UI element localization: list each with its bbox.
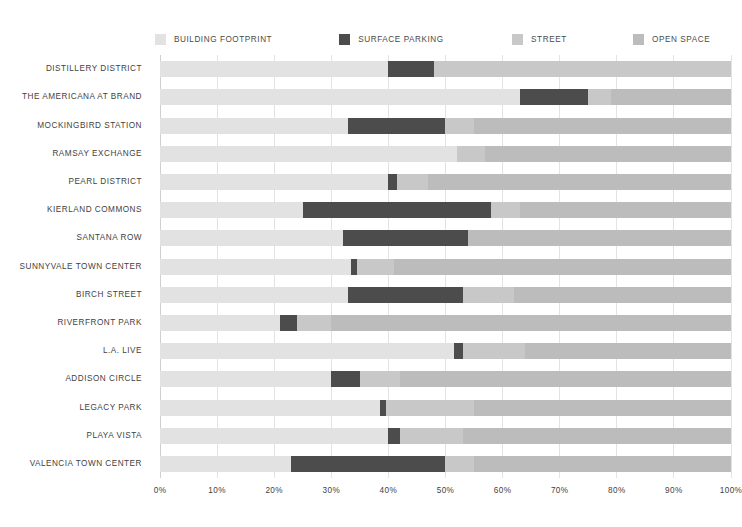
bar-segment[interactable]	[394, 259, 731, 275]
value-axis-labels: 0%10%20%30%40%50%60%70%80%90%100%	[160, 486, 731, 500]
bar-segment[interactable]	[160, 61, 388, 77]
bar-segment[interactable]	[514, 287, 731, 303]
bar-segment[interactable]	[434, 61, 731, 77]
bar-track	[160, 174, 731, 190]
bar-segment[interactable]	[388, 428, 399, 444]
bar-row[interactable]	[160, 287, 731, 303]
bar-segment[interactable]	[331, 371, 360, 387]
bar-segment[interactable]	[160, 400, 380, 416]
bar-segment[interactable]	[491, 202, 520, 218]
category-label: DISTILLERY DISTRICT	[46, 64, 142, 73]
bar-segment[interactable]	[357, 259, 394, 275]
bar-segment[interactable]	[428, 174, 731, 190]
bar-segment[interactable]	[468, 230, 731, 246]
plot-area	[160, 55, 731, 478]
bar-segment[interactable]	[474, 400, 731, 416]
bar-segment[interactable]	[160, 428, 388, 444]
category-label: BIRCH STREET	[76, 290, 142, 299]
bar-segment[interactable]	[160, 287, 348, 303]
legend-item[interactable]: OPEN SPACE	[633, 30, 710, 48]
bar-segment[interactable]	[388, 174, 397, 190]
bar-segment[interactable]	[160, 230, 343, 246]
bar-row[interactable]	[160, 61, 731, 77]
x-tick-label: 90%	[665, 486, 683, 495]
category-label: SANTANA ROW	[77, 233, 142, 242]
bar-segment[interactable]	[388, 61, 434, 77]
bar-segment[interactable]	[474, 456, 731, 472]
bar-row[interactable]	[160, 259, 731, 275]
bar-row[interactable]	[160, 371, 731, 387]
bar-segment[interactable]	[160, 259, 351, 275]
bar-row[interactable]	[160, 202, 731, 218]
bar-row[interactable]	[160, 146, 731, 162]
bar-row[interactable]	[160, 174, 731, 190]
bar-segment[interactable]	[474, 118, 731, 134]
bar-segment[interactable]	[348, 287, 462, 303]
bar-segment[interactable]	[445, 456, 474, 472]
legend-item-label: OPEN SPACE	[652, 35, 710, 44]
bar-segment[interactable]	[386, 400, 475, 416]
category-label: SUNNYVALE TOWN CENTER	[20, 262, 142, 271]
bar-track	[160, 259, 731, 275]
bar-segment[interactable]	[525, 343, 731, 359]
bar-row[interactable]	[160, 230, 731, 246]
legend-item[interactable]: STREET	[512, 30, 567, 48]
bar-segment[interactable]	[160, 146, 457, 162]
bar-segment[interactable]	[457, 146, 486, 162]
bar-segment[interactable]	[400, 428, 463, 444]
bar-segment[interactable]	[343, 230, 469, 246]
bar-track	[160, 230, 731, 246]
legend-swatch-icon	[633, 34, 644, 45]
bar-segment[interactable]	[463, 287, 514, 303]
bar-segment[interactable]	[454, 343, 463, 359]
x-tick-label: 100%	[720, 486, 742, 495]
category-label: PEARL DISTRICT	[68, 177, 142, 186]
bar-segment[interactable]	[588, 89, 611, 105]
bar-row[interactable]	[160, 118, 731, 134]
bar-segment[interactable]	[297, 315, 331, 331]
bar-segment[interactable]	[445, 118, 474, 134]
bar-segment[interactable]	[520, 202, 731, 218]
x-tick-label: 70%	[551, 486, 569, 495]
bar-segment[interactable]	[520, 89, 589, 105]
category-label: THE AMERICANA AT BRAND	[22, 92, 142, 101]
x-tick-label: 30%	[323, 486, 341, 495]
bar-segment[interactable]	[160, 202, 303, 218]
bar-segment[interactable]	[397, 174, 428, 190]
bar-segment[interactable]	[160, 118, 348, 134]
bar-segment[interactable]	[611, 89, 731, 105]
legend-item-label: BUILDING FOOTPRINT	[174, 35, 272, 44]
bar-segment[interactable]	[360, 371, 400, 387]
legend-swatch-icon	[155, 34, 166, 45]
bar-row[interactable]	[160, 89, 731, 105]
bar-segment[interactable]	[463, 343, 526, 359]
legend-item-label: SURFACE PARKING	[358, 35, 443, 44]
bar-segment[interactable]	[485, 146, 731, 162]
bar-segment[interactable]	[160, 343, 454, 359]
category-label: RIVERFRONT PARK	[57, 318, 142, 327]
bar-segment[interactable]	[280, 315, 297, 331]
bar-row[interactable]	[160, 315, 731, 331]
bar-segment[interactable]	[160, 315, 280, 331]
bar-row[interactable]	[160, 428, 731, 444]
bar-segment[interactable]	[348, 118, 445, 134]
bar-track	[160, 315, 731, 331]
bar-segment[interactable]	[291, 456, 445, 472]
legend-item[interactable]: BUILDING FOOTPRINT	[155, 30, 272, 48]
bar-segment[interactable]	[400, 371, 731, 387]
bar-segment[interactable]	[331, 315, 731, 331]
bar-row[interactable]	[160, 400, 731, 416]
category-axis-labels: DISTILLERY DISTRICTTHE AMERICANA AT BRAN…	[0, 55, 150, 478]
bar-segment[interactable]	[160, 456, 291, 472]
bar-segment[interactable]	[160, 174, 388, 190]
bar-row[interactable]	[160, 343, 731, 359]
bar-track	[160, 61, 731, 77]
x-tick-label: 20%	[265, 486, 283, 495]
bar-segment[interactable]	[160, 371, 331, 387]
bar-row[interactable]	[160, 456, 731, 472]
bar-segment[interactable]	[463, 428, 731, 444]
x-tick-label: 0%	[154, 486, 167, 495]
legend-item[interactable]: SURFACE PARKING	[339, 30, 443, 48]
bar-segment[interactable]	[160, 89, 520, 105]
bar-segment[interactable]	[303, 202, 491, 218]
